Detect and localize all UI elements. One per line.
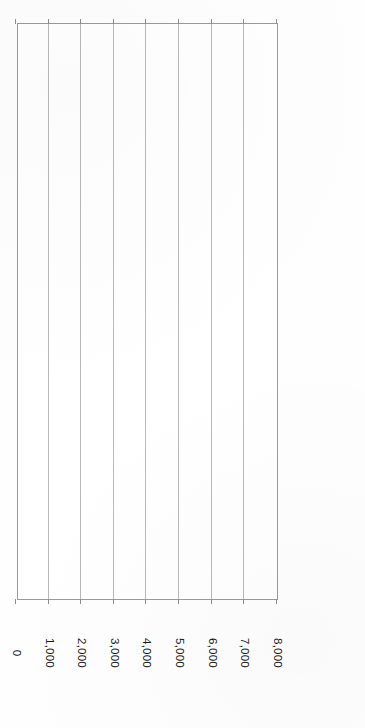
rotated-figure-wrapper: 01,0002,0003,0004,0005,0006,0007,0008,00… (0, 0, 365, 728)
gridline (113, 24, 114, 599)
tick-mark (80, 599, 81, 604)
value-axis-tick-label: 8,000 (271, 626, 285, 680)
tick-mark (146, 599, 147, 604)
gridline (178, 24, 179, 599)
tick-mark (276, 19, 277, 24)
tick-mark (113, 599, 114, 604)
tick-mark (146, 19, 147, 24)
value-axis-tick-label: 7,000 (238, 626, 252, 680)
bar-series (18, 24, 277, 599)
gridline (48, 24, 49, 599)
tick-mark (178, 599, 179, 604)
tick-mark (211, 19, 212, 24)
tick-mark (243, 19, 244, 24)
value-axis-tick-label: 6,000 (206, 626, 220, 680)
value-axis-tick-labels: 01,0002,0003,0004,0005,0006,0007,0008,00… (0, 600, 365, 660)
tick-mark (80, 19, 81, 24)
gridline (146, 24, 147, 599)
tick-mark (48, 599, 49, 604)
gridline (243, 24, 244, 599)
value-axis-tick-label: 5,000 (173, 626, 187, 680)
value-axis-tick-label: 4,000 (141, 626, 155, 680)
value-axis-tick-label: 2,000 (75, 626, 89, 680)
tick-mark (243, 599, 244, 604)
category-axis-labels (278, 23, 365, 600)
bar-chart-figure: 01,0002,0003,0004,0005,0006,0007,0008,00… (0, 0, 365, 728)
tick-mark (211, 599, 212, 604)
gridline (211, 24, 212, 599)
plot-area (17, 23, 278, 600)
tick-mark (15, 599, 16, 604)
tick-mark (276, 599, 277, 604)
gridline (80, 24, 81, 599)
value-axis-tick-label: 0 (10, 626, 24, 680)
tick-mark (113, 19, 114, 24)
value-axis-tick-label: 1,000 (43, 626, 57, 680)
value-axis-tick-label: 3,000 (108, 626, 122, 680)
tick-mark (15, 19, 16, 24)
tick-mark (48, 19, 49, 24)
tick-mark (178, 19, 179, 24)
